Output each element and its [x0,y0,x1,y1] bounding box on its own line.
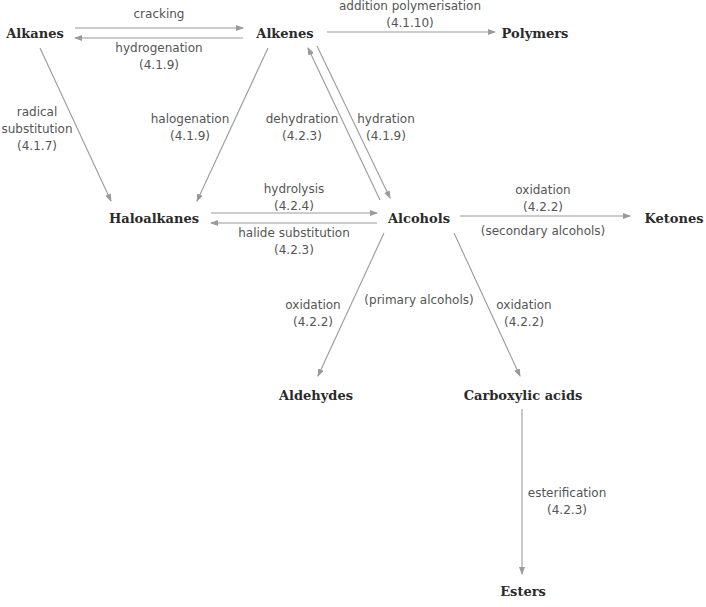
node-ketones: Ketones [644,211,703,226]
label-hydrogenation: hydrogenation (4.1.9) [115,40,202,74]
label-hydrolysis: hydrolysis (4.2.4) [264,181,325,215]
node-polymers: Polymers [502,26,569,41]
label-dehydration: dehydration (4.2.3) [266,111,339,145]
node-alkanes: Alkanes [6,26,64,41]
label-radical-substitution: radical substitution (4.1.7) [1,104,72,155]
label-oxidation-aldehydes: oxidation (4.2.2) [285,297,340,331]
node-alkenes: Alkenes [256,26,313,41]
node-haloalkanes: Haloalkanes [109,211,199,226]
label-oxidation-ketones: oxidation (4.2.2) [515,182,570,216]
node-aldehydes: Aldehydes [279,388,353,403]
label-oxidation-acids: oxidation (4.2.2) [496,297,551,331]
node-esters: Esters [500,584,546,599]
label-esterification: esterification (4.2.3) [528,485,607,519]
label-secondary-alcohols: (secondary alcohols) [481,223,606,240]
label-hydration: hydration (4.1.9) [357,111,415,145]
reaction-pathway-diagram: Alkanes Alkenes Polymers Haloalkanes Alc… [0,0,706,607]
label-halide-substitution: halide substitution (4.2.3) [238,225,350,259]
node-carboxylic-acids: Carboxylic acids [464,388,583,403]
node-alcohols: Alcohols [388,211,450,226]
label-halogenation: halogenation (4.1.9) [151,111,230,145]
label-addition-polymerisation: addition polymerisation (4.1.10) [339,0,481,32]
label-cracking: cracking [134,6,185,23]
label-primary-alcohols: (primary alcohols) [364,292,473,309]
